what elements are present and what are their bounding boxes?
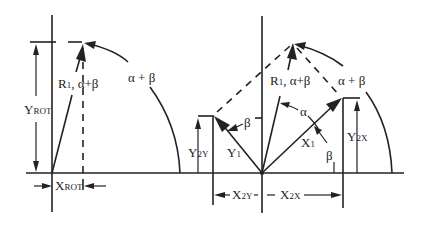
right-arc-alpha-beta-lower	[366, 92, 392, 173]
alpha-arrowhead-icon	[280, 102, 290, 108]
x-rot-label: XROT	[55, 178, 83, 193]
y-rot-up-arrow-icon	[33, 44, 39, 55]
right-figure: R1, α+β α + β α β β X1 Y1 Y2X Y2Y X2Y X2…	[188, 16, 392, 213]
left-arc-alpha-beta	[89, 44, 128, 62]
x2x-right-arrow-icon	[331, 192, 342, 198]
apex-dashed-right	[297, 48, 340, 96]
beta-upper-label: β	[244, 115, 251, 130]
left-arc-lower	[150, 87, 180, 173]
x2y-left-arrow-icon	[214, 192, 225, 198]
beta-lower-label: β	[326, 148, 333, 163]
right-arc-alpha-beta-upper	[298, 45, 343, 66]
x-rot-right-arrow-icon	[42, 183, 52, 189]
y1-label: Y1	[227, 145, 241, 160]
right-arc-arrowhead-icon	[294, 42, 306, 50]
x2x-label: X2X	[280, 187, 301, 202]
x-rot-left-arrow-icon	[84, 183, 94, 189]
y-rot-down-arrow-icon	[33, 161, 39, 172]
right-r1-vector	[262, 96, 280, 173]
right-origin-point	[260, 171, 264, 175]
rotation-vector-diagram: R1, α+β α + β YROT XROT	[0, 0, 422, 227]
left-r1-vector	[52, 95, 72, 173]
left-figure: R1, α+β α + β YROT XROT	[24, 15, 180, 212]
left-r1-arrowhead-icon	[76, 44, 86, 62]
x1-label: X1	[301, 135, 315, 150]
right-r1-arrowhead-icon	[287, 43, 297, 60]
left-r1-label: R1, α+β	[58, 76, 99, 91]
left-arc-arrowhead-icon	[84, 41, 96, 49]
y2x-up-arrow-icon	[354, 100, 360, 111]
alpha-label: α	[300, 104, 307, 119]
y2y-up-arrow-icon	[195, 118, 201, 129]
right-arc-label: α + β	[338, 73, 366, 88]
left-arc-label: α + β	[128, 70, 156, 85]
right-r1-label: R1, α+β	[270, 73, 311, 88]
x2y-label: X2Y	[232, 187, 253, 202]
y-rot-label: YROT	[24, 102, 52, 117]
